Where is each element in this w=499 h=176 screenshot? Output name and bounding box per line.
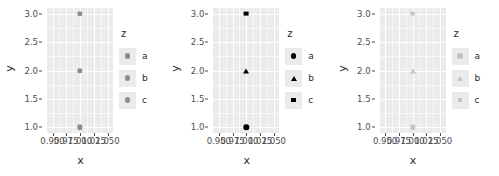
- data-point-triangle: [457, 76, 463, 81]
- gridline-vertical-minor: [239, 8, 240, 133]
- data-point-square: [291, 98, 296, 103]
- legend-item-c[interactable]: c: [285, 90, 331, 110]
- legend-item-b[interactable]: b: [119, 68, 165, 88]
- legend-key-swatch: [119, 48, 136, 65]
- plot-panel-block-3: y1.01.52.02.53.00.9500.9751.0001.0251.05…: [333, 0, 499, 176]
- gridline-vertical-major: [53, 8, 54, 133]
- legend-item-label: c: [475, 95, 480, 105]
- y-tick-mark: [39, 13, 42, 14]
- data-point-circle: [457, 53, 462, 58]
- data-point-circle: [125, 53, 130, 58]
- x-axis-tick-labels: 0.9500.9751.0001.0251.050: [186, 137, 306, 149]
- legend-item-label: a: [475, 51, 481, 61]
- gridline-vertical-minor: [253, 8, 254, 133]
- legend-key-swatch: [452, 48, 469, 65]
- data-point-triangle: [291, 76, 297, 81]
- data-point-square: [458, 98, 463, 103]
- legend-item-c[interactable]: c: [119, 90, 165, 110]
- y-tick-mark: [205, 70, 208, 71]
- legend: zabc: [119, 28, 165, 112]
- legend-item-b[interactable]: b: [285, 68, 331, 88]
- scatter-plot-figure: y1.01.52.02.53.00.9500.9751.0001.0251.05…: [0, 0, 499, 176]
- legend-item-a[interactable]: a: [452, 46, 498, 66]
- gridline-vertical-minor: [392, 8, 393, 133]
- x-axis-title: x: [380, 154, 447, 167]
- y-tick-mark: [205, 42, 208, 43]
- data-point-triangle: [243, 68, 249, 73]
- y-tick-mark: [39, 42, 42, 43]
- legend-item-a[interactable]: a: [119, 46, 165, 66]
- legend-key-swatch: [285, 48, 302, 65]
- data-point-circle: [77, 68, 82, 73]
- legend-title: z: [454, 28, 498, 39]
- y-tick-mark: [372, 42, 375, 43]
- legend-key-swatch: [452, 92, 469, 109]
- x-axis-title: x: [47, 154, 114, 167]
- gridline-vertical-minor: [433, 8, 434, 133]
- data-point-square: [244, 11, 249, 16]
- gridline-vertical-minor: [101, 8, 102, 133]
- legend-item-label: c: [308, 95, 313, 105]
- legend-title: z: [287, 28, 331, 39]
- data-point-triangle: [410, 68, 416, 73]
- gridline-vertical-major: [274, 8, 275, 133]
- y-tick-mark: [39, 127, 42, 128]
- legend-item-label: b: [308, 73, 314, 83]
- gridline-vertical-major: [233, 8, 234, 133]
- plot-panel: [47, 8, 113, 133]
- gridline-vertical-minor: [267, 8, 268, 133]
- x-tick-label: 1.050: [428, 137, 452, 146]
- legend-item-label: b: [475, 73, 481, 83]
- y-tick-label: 1.5: [191, 95, 205, 104]
- legend-key-swatch: [119, 92, 136, 109]
- y-tick-mark: [372, 13, 375, 14]
- y-axis-tick-labels: 1.01.52.02.53.0: [347, 8, 375, 133]
- y-tick-label: 1.0: [357, 123, 371, 132]
- data-point-circle: [410, 125, 415, 130]
- gridline-vertical-minor: [406, 8, 407, 133]
- legend-title: z: [121, 28, 165, 39]
- y-tick-mark: [39, 98, 42, 99]
- y-tick-label: 2.5: [357, 38, 371, 47]
- x-tick-label: 1.050: [262, 137, 286, 146]
- legend-item-label: a: [142, 51, 148, 61]
- gridline-vertical-major: [66, 8, 67, 133]
- legend-item-label: b: [142, 73, 148, 83]
- gridline-vertical-major: [94, 8, 95, 133]
- legend-item-b[interactable]: b: [452, 68, 498, 88]
- gridline-vertical-minor: [87, 8, 88, 133]
- gridline-vertical-minor: [73, 8, 74, 133]
- plot-panel-block-2: y1.01.52.02.53.00.9500.9751.0001.0251.05…: [166, 0, 332, 176]
- y-tick-label: 2.0: [357, 66, 371, 75]
- y-tick-mark: [205, 127, 208, 128]
- gridline-vertical-minor: [59, 8, 60, 133]
- y-axis-tick-labels: 1.01.52.02.53.0: [180, 8, 208, 133]
- data-point-circle: [244, 125, 249, 130]
- data-point-circle: [77, 125, 82, 130]
- x-axis-tick-labels: 0.9500.9751.0001.0251.050: [353, 137, 473, 149]
- data-point-circle: [125, 97, 130, 102]
- gridline-vertical-major: [399, 8, 400, 133]
- y-tick-mark: [372, 70, 375, 71]
- data-point-circle: [291, 53, 296, 58]
- legend-key-swatch: [285, 70, 302, 87]
- legend-key-swatch: [119, 70, 136, 87]
- gridline-vertical-major: [260, 8, 261, 133]
- legend-item-label: c: [142, 95, 147, 105]
- gridline-vertical-major: [426, 8, 427, 133]
- legend-item-a[interactable]: a: [285, 46, 331, 66]
- y-tick-label: 1.0: [24, 123, 38, 132]
- legend-item-c[interactable]: c: [452, 90, 498, 110]
- y-tick-label: 2.5: [191, 38, 205, 47]
- y-tick-mark: [39, 70, 42, 71]
- y-tick-mark: [205, 13, 208, 14]
- y-tick-label: 3.0: [357, 9, 371, 18]
- plot-panel: [380, 8, 446, 133]
- legend: zabc: [285, 28, 331, 112]
- y-tick-label: 1.5: [357, 95, 371, 104]
- gridline-vertical-major: [108, 8, 109, 133]
- y-tick-label: 1.0: [191, 123, 205, 132]
- gridline-vertical-minor: [419, 8, 420, 133]
- y-tick-label: 1.5: [24, 95, 38, 104]
- plot-panel-block-1: y1.01.52.02.53.00.9500.9751.0001.0251.05…: [0, 0, 166, 176]
